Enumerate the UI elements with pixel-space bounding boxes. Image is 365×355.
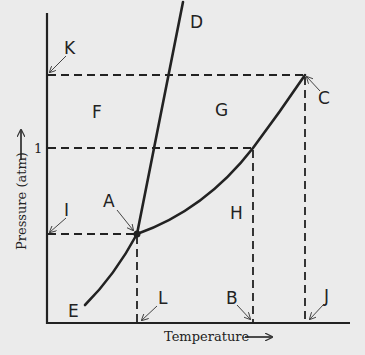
label-A: A — [103, 191, 115, 211]
label-E: E — [68, 301, 79, 321]
y-tick-1: 1 — [34, 141, 42, 156]
sublimation-curve-EA — [85, 234, 137, 305]
vaporization-curve-AC — [137, 75, 305, 234]
phase-diagram: D K C F G I A H E L B J 1 Pressure (atm)… — [0, 0, 365, 355]
x-axis-label: Temperature — [164, 329, 249, 344]
melting-curve-AD — [137, 2, 183, 234]
arrow-L — [142, 306, 157, 320]
label-D: D — [190, 12, 203, 32]
phase-diagram-canvas: D K C F G I A H E L B J 1 Pressure (atm)… — [0, 0, 365, 355]
arrow-K — [50, 56, 66, 72]
y-axis-label: Pressure (atm) — [14, 152, 29, 250]
label-G: G — [215, 100, 228, 120]
label-C: C — [318, 88, 330, 108]
label-K: K — [64, 38, 76, 58]
label-H: H — [230, 203, 243, 223]
label-I: I — [64, 200, 69, 220]
label-L: L — [158, 288, 168, 308]
arrow-J — [310, 304, 324, 319]
arrow-B — [237, 305, 250, 319]
label-B: B — [226, 288, 238, 308]
label-F: F — [92, 102, 102, 122]
label-J: J — [323, 286, 329, 306]
triple-point-A — [134, 231, 141, 238]
arrow-A — [117, 210, 133, 230]
arrow-I — [50, 218, 66, 232]
